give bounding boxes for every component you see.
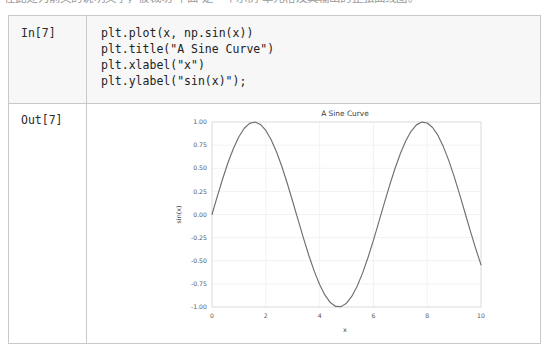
x-tick-label: 8 [425, 312, 429, 319]
y-tick-label: -0.50 [191, 257, 207, 264]
clipped-prose-text: 在此处为前文的说明文字，被裁切 下面 是一个示例 单元格及其输出的正弦曲线图。 [4, 0, 549, 5]
x-tick-label: 6 [371, 312, 375, 319]
y-tick-label: -1.00 [191, 303, 207, 310]
input-prompt-label: In[7] [9, 16, 87, 103]
x-axis-label: x [343, 326, 347, 334]
output-prompt-label: Out[7] [9, 104, 87, 343]
input-cell-content: plt.plot(x, np.sin(x)) plt.title("A Sine… [87, 16, 540, 103]
y-tick-label: -0.75 [191, 280, 207, 287]
chart-gridlines [212, 122, 481, 307]
y-tick-label: 0.50 [193, 164, 207, 171]
clipped-prose-strip: 在此处为前文的说明文字，被裁切 下面 是一个示例 单元格及其输出的正弦曲线图。 [0, 0, 549, 8]
y-axis-label: sin(x) [175, 206, 183, 224]
input-cell-row: In[7] plt.plot(x, np.sin(x)) plt.title("… [9, 16, 540, 104]
y-tick-label: 0.25 [193, 188, 207, 195]
code-source[interactable]: plt.plot(x, np.sin(x)) plt.title("A Sine… [101, 25, 540, 89]
y-tick-label: -0.25 [191, 234, 207, 241]
y-tick-label: 1.00 [193, 118, 207, 125]
x-axis-tick-labels: 0246810 [210, 312, 485, 319]
x-tick-label: 10 [477, 312, 485, 319]
x-tick-label: 0 [210, 312, 214, 319]
x-tick-label: 2 [264, 312, 268, 319]
y-axis-tick-labels: -1.00-0.75-0.50-0.250.000.250.500.751.00 [191, 118, 207, 310]
output-cell-row: Out[7] A Sine Curve -1.00-0.75-0.50-0.25… [9, 104, 540, 343]
notebook-cell-table: In[7] plt.plot(x, np.sin(x)) plt.title("… [8, 15, 541, 344]
y-tick-label: 0.75 [193, 141, 207, 148]
matplotlib-figure: A Sine Curve -1.00-0.75-0.50-0.250.000.2… [165, 104, 495, 342]
chart-title: A Sine Curve [321, 109, 369, 118]
x-tick-label: 4 [318, 312, 322, 319]
y-tick-label: 0.00 [193, 211, 207, 218]
output-cell-content: A Sine Curve -1.00-0.75-0.50-0.250.000.2… [87, 104, 540, 343]
sine-curve-chart: A Sine Curve -1.00-0.75-0.50-0.250.000.2… [165, 104, 495, 342]
